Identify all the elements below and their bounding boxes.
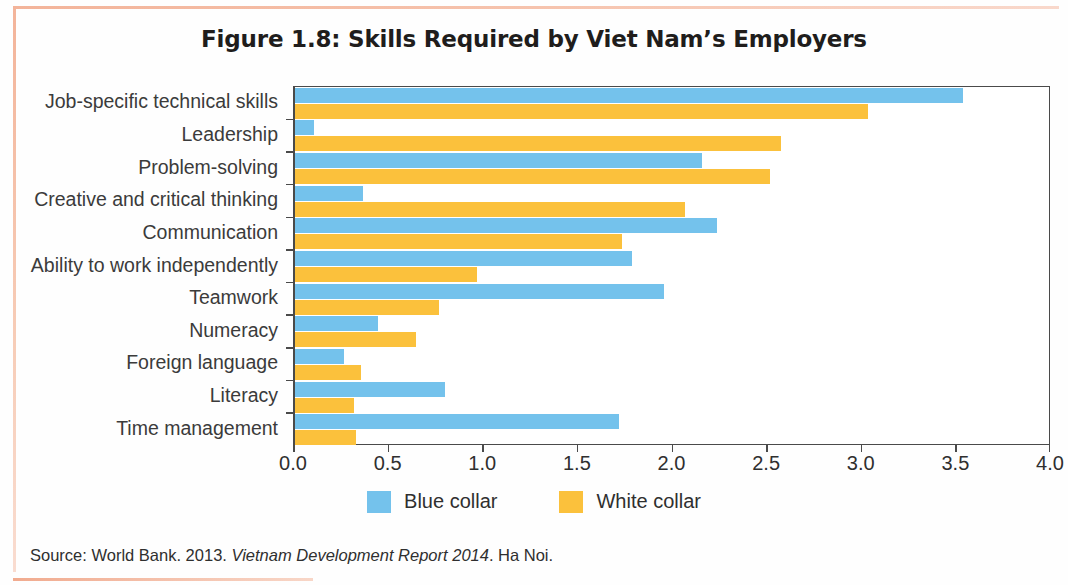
category-label-job-specific-technical-skills: Job-specific technical skills	[45, 92, 278, 112]
category-label-communication: Communication	[143, 223, 278, 243]
figure-page: Figure 1.8: Skills Required by Viet Nam’…	[0, 0, 1068, 585]
bar-white-collar-creative-and-critical-thinking	[295, 202, 685, 217]
bar-blue-collar-leadership	[295, 120, 314, 135]
bar-blue-collar-literacy	[295, 382, 445, 397]
bar-white-collar-communication	[295, 234, 622, 249]
x-axis-tick-3-5	[955, 445, 957, 452]
bar-white-collar-ability-to-work-independently	[295, 267, 477, 282]
category-label-leadership: Leadership	[182, 125, 279, 145]
x-axis-label-1-5: 1.5	[563, 452, 591, 475]
category-label-foreign-language: Foreign language	[126, 353, 278, 373]
legend-label-blue-collar: Blue collar	[404, 490, 497, 513]
bar-white-collar-problem-solving	[295, 169, 770, 184]
x-axis-tick-0-0	[293, 445, 295, 452]
x-axis-label-3-5: 3.5	[941, 452, 969, 475]
bar-blue-collar-job-specific-technical-skills	[295, 88, 963, 103]
bar-blue-collar-problem-solving	[295, 153, 702, 168]
bar-white-collar-foreign-language	[295, 365, 361, 380]
legend-item-white-collar[interactable]: White collar	[559, 490, 700, 513]
category-label-time-management: Time management	[116, 419, 278, 439]
x-axis-label-2-5: 2.5	[752, 452, 780, 475]
chart-legend: Blue collarWhite collar	[0, 490, 1068, 513]
category-label-creative-and-critical-thinking: Creative and critical thinking	[34, 190, 278, 210]
x-axis-label-3-0: 3.0	[847, 452, 875, 475]
bars-layer	[295, 87, 1049, 444]
plot-area	[293, 86, 1050, 445]
x-axis-tick-1-5	[577, 445, 579, 452]
bar-white-collar-numeracy	[295, 332, 416, 347]
category-label-ability-to-work-independently: Ability to work independently	[31, 256, 278, 276]
category-axis-labels: Job-specific technical skillsLeadershipP…	[20, 86, 286, 445]
source-note: Source: World Bank. 2013. Vietnam Develo…	[30, 546, 553, 565]
bar-white-collar-job-specific-technical-skills	[295, 104, 868, 119]
source-publication: Vietnam Development Report 2014	[231, 546, 488, 564]
x-axis-tick-4-0	[1049, 445, 1051, 452]
legend-item-blue-collar[interactable]: Blue collar	[367, 490, 497, 513]
bar-white-collar-teamwork	[295, 300, 439, 315]
bar-blue-collar-time-management	[295, 414, 619, 429]
bar-blue-collar-numeracy	[295, 316, 378, 331]
x-axis-label-4-0: 4.0	[1036, 452, 1064, 475]
legend-swatch-white-collar	[559, 491, 583, 513]
legend-swatch-blue-collar	[367, 491, 391, 513]
bar-blue-collar-ability-to-work-independently	[295, 251, 632, 266]
category-label-problem-solving: Problem-solving	[138, 158, 278, 178]
bar-blue-collar-teamwork	[295, 284, 664, 299]
x-axis-label-1-0: 1.0	[468, 452, 496, 475]
source-suffix: . Ha Noi.	[489, 546, 553, 564]
legend-label-white-collar: White collar	[596, 490, 700, 513]
bar-white-collar-literacy	[295, 398, 354, 413]
category-label-literacy: Literacy	[210, 386, 278, 406]
x-axis-tick-2-0	[672, 445, 674, 452]
x-axis-tick-1-0	[482, 445, 484, 452]
category-label-numeracy: Numeracy	[189, 321, 278, 341]
category-label-teamwork: Teamwork	[189, 288, 278, 308]
x-axis-label-0-0: 0.0	[279, 452, 307, 475]
x-axis-tick-0-5	[388, 445, 390, 452]
bar-blue-collar-foreign-language	[295, 349, 344, 364]
x-axis-tick-2-5	[766, 445, 768, 452]
bar-white-collar-leadership	[295, 136, 781, 151]
x-axis-label-2-0: 2.0	[658, 452, 686, 475]
bar-blue-collar-communication	[295, 218, 717, 233]
x-axis-label-0-5: 0.5	[374, 452, 402, 475]
source-prefix: Source: World Bank. 2013.	[30, 546, 227, 564]
x-axis-tick-3-0	[861, 445, 863, 452]
bar-blue-collar-creative-and-critical-thinking	[295, 186, 363, 201]
bar-white-collar-time-management	[295, 430, 356, 445]
bar-chart: Job-specific technical skillsLeadershipP…	[0, 0, 1068, 585]
